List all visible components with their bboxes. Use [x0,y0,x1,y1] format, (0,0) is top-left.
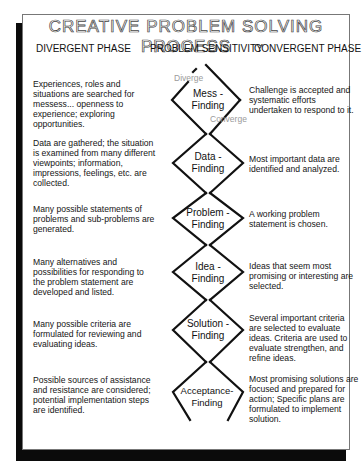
acceptance-finding-divergent-text: Possible sources of assistance and resis… [33,375,158,415]
solution-finding-divergent-text: Many possible criteria are formulated fo… [33,319,158,349]
data-finding-divergent-text: Data are gathered; the situation is exam… [33,138,158,188]
data-finding-label: Data - Finding [173,151,243,174]
problem-finding-convergent-text: A working problem statement is chosen. [249,209,359,229]
mess-finding-convergent-text: Challenge is accepted and systematic eff… [249,85,359,115]
diverge-entry-stroke [193,69,196,72]
acceptance-finding-label: Acceptance- Finding [172,385,242,408]
solution-finding-label: Solution - Finding [173,318,243,341]
data-finding-convergent-text: Most important data are identified and a… [249,154,359,174]
mess-finding-label: Mess - Finding [173,88,243,111]
idea-finding-convergent-text: Ideas that seem most promising or intere… [249,261,359,291]
diverge-label: Diverge [174,73,203,83]
solution-finding-convergent-text: Several important criteria are selected … [249,313,359,363]
mess-finding-divergent-text: Experiences, roles and situations are se… [33,79,158,129]
idea-finding-divergent-text: Many alternatives and possibilities for … [33,257,158,297]
acceptance-finding-convergent-text: Most promising solutions are focused and… [249,374,359,424]
idea-finding-label: Idea - Finding [173,261,243,284]
problem-finding-divergent-text: Many possible statements of problems and… [33,204,158,234]
problem-finding-label: Problem - Finding [173,207,243,230]
converge-label: Converge [210,114,247,124]
